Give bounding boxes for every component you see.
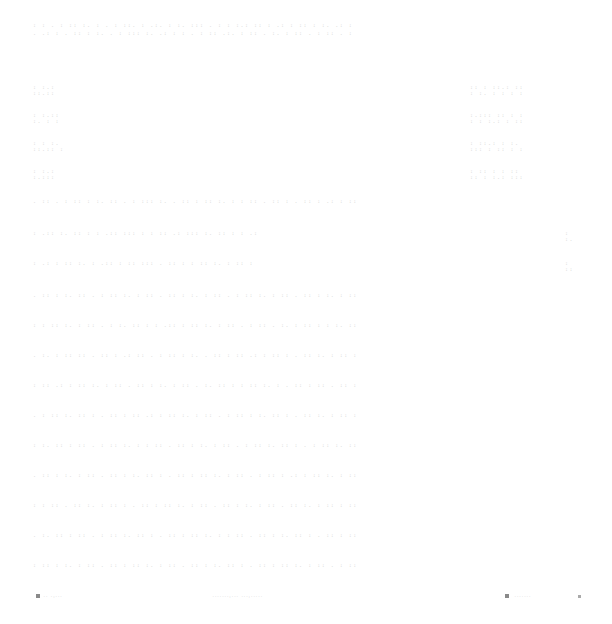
marked-row-2-marker: : ::	[565, 260, 574, 272]
summary-label-3: : : :. ::.:: :	[33, 140, 65, 152]
paragraph-row: : :: .: : :: :. : :: . :: : :. : :: . :.…	[33, 382, 358, 388]
summary-value-3: : ::.: : :. ::: : :: : :	[470, 140, 524, 152]
footer-left-icon	[36, 594, 40, 598]
summary-value-2: :.::: :: : : : : :.: : ::	[470, 112, 524, 124]
paragraph-row: . : :: :. :: : . :: : :: .: : :: :. : ::…	[33, 412, 358, 418]
divider-text: . :: . : :: : :. :: . : ::: :. . :: : ::…	[33, 198, 358, 204]
summary-value-1: :: : ::.: :: : :. : : : :	[470, 84, 524, 96]
paragraph-row: : :. :: : :: . : :: :. : : :: . :: : :. …	[33, 442, 358, 448]
paragraph-row: : : :: . :: :. : :: : . :: : :: :. : :: …	[33, 502, 358, 508]
paragraph-row: : :: : :. : :: . :: : :: :. : :: . :: : …	[33, 562, 358, 568]
summary-label-1: : :.: ::.::	[33, 84, 56, 96]
paragraph-row: : : :: :. : :: . : :. :: : : .:: : :: :.…	[33, 322, 358, 328]
summary-value-4: : :: : : :: :: : :.: :::	[470, 168, 524, 180]
marked-row-1-marker: : :.	[565, 230, 574, 242]
footer-left-text: ·· ·:···	[43, 594, 62, 599]
footer-center-text: ·······:··· ···:·····	[212, 594, 263, 599]
summary-label-2: : :.:: :. : :	[33, 112, 60, 124]
marked-row-2: : .: : :: :. : .:: : :: ::: . :: : : :: …	[33, 260, 254, 266]
paragraph-row: . :: : :. :: . : :: :. : :: . :: : :. : …	[33, 292, 358, 298]
paragraph-row: . :. : :: :: . :: : .: :: . : :: : :. . …	[33, 352, 358, 358]
footer-right-icon	[505, 594, 509, 598]
paragraph-row: . :: : :. : :: . :: : :. :: : . :: : :: …	[33, 472, 358, 478]
paragraph-row: . :. :: : :: . : :: :. :: : . :: : :: :.…	[33, 532, 358, 538]
footer-right-text: ·······	[514, 594, 531, 599]
footer-end-icon	[578, 595, 581, 598]
marked-row-1: : .:: :. :: : : .:: ::: : : :: .: ::: :.…	[33, 230, 259, 236]
header-line-1: : : . : :: :. : . : ::. : .:. : :. ::: .…	[33, 22, 353, 28]
summary-label-4: : :.: :.:::	[33, 168, 56, 180]
header-line-2: . .: : . :: : :. . : ::: :. .: : : . : :…	[33, 30, 353, 36]
